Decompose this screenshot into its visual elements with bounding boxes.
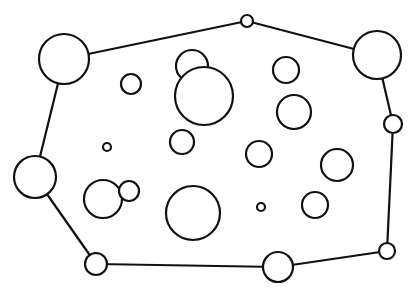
- hull-circle-h5: [379, 243, 395, 259]
- interior-circle-i5: [170, 130, 194, 154]
- interior-circle-i1: [121, 74, 141, 94]
- interior-circle-i10: [84, 180, 122, 218]
- interior-circle-i8: [246, 141, 272, 167]
- hull-edge-h4-h5: [387, 124, 393, 251]
- interior-circle-i3: [175, 67, 233, 125]
- interior-circle-i11: [119, 181, 139, 201]
- interior-circle-i6: [273, 57, 299, 83]
- circle-nodes: [14, 15, 402, 282]
- interior-circle-i9: [321, 149, 353, 181]
- interior-circle-i12: [166, 186, 220, 240]
- hull-circle-h4: [384, 115, 402, 133]
- hull-edge-h5-h6: [278, 251, 387, 267]
- hull-circle-h7: [85, 253, 107, 275]
- hull-circle-h1: [39, 34, 89, 84]
- circle-hull-diagram: [0, 0, 420, 295]
- hull-circle-h6: [263, 252, 293, 282]
- hull-circle-h3: [353, 31, 401, 79]
- interior-circle-i7: [277, 95, 311, 129]
- hull-circle-h8: [14, 156, 56, 198]
- interior-circle-i13: [257, 203, 265, 211]
- hull-edge-h6-h7: [96, 264, 278, 267]
- interior-circle-i4: [103, 143, 111, 151]
- interior-circle-i14: [302, 192, 328, 218]
- hull-edge-h1-h2: [64, 21, 247, 59]
- hull-circle-h2: [241, 15, 253, 27]
